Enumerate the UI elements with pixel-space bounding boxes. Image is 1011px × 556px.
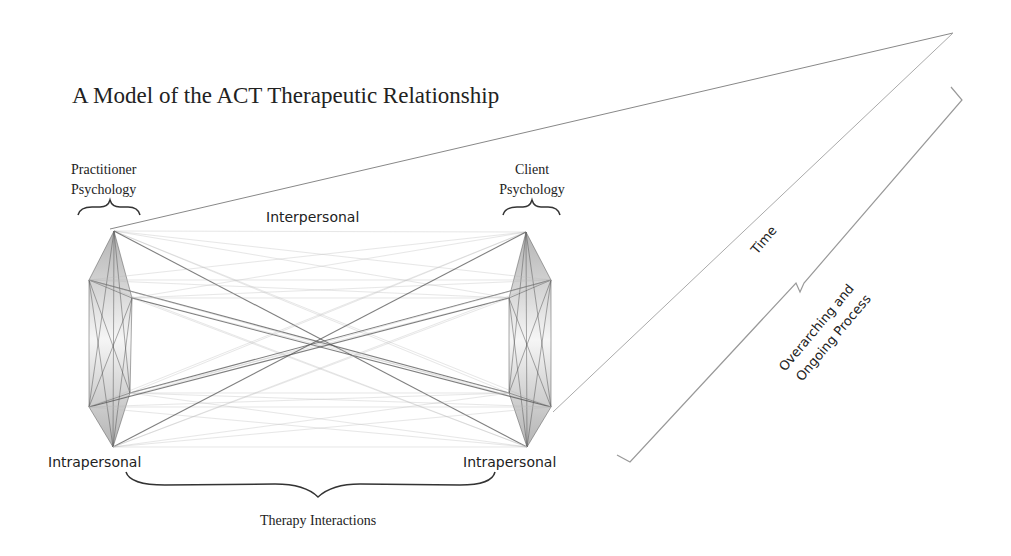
practitioner-label-line2: Psychology	[71, 182, 136, 197]
act-model-diagram: A Model of the ACT Therapeutic Relations…	[0, 0, 1011, 556]
time-label: Time	[747, 223, 780, 258]
practitioner-label-line1: Practitioner	[71, 162, 137, 177]
client-label-line1: Client	[515, 162, 549, 177]
diagram-canvas: A Model of the ACT Therapeutic Relations…	[0, 0, 1011, 556]
interaction-edges	[89, 231, 551, 447]
client-hexagon	[509, 232, 551, 447]
intrapersonal-right-label: Intrapersonal	[463, 454, 556, 470]
overarching-bracket	[617, 87, 962, 462]
therapy-brace	[126, 472, 495, 497]
intrapersonal-left-label: Intrapersonal	[48, 454, 141, 470]
therapy-interactions-label: Therapy Interactions	[260, 513, 376, 528]
diagram-title: A Model of the ACT Therapeutic Relations…	[72, 83, 499, 108]
client-label-line2: Psychology	[499, 182, 564, 197]
practitioner-brace	[78, 200, 140, 215]
client-brace	[503, 200, 560, 215]
interpersonal-label: Interpersonal	[266, 209, 359, 225]
